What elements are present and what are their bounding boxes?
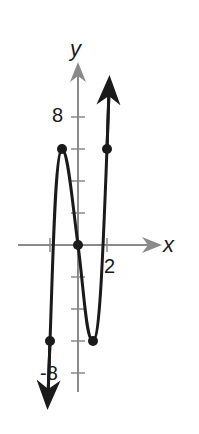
point--2--6 (45, 336, 55, 346)
y-tick-label-8: 8 (52, 104, 63, 127)
point-1--6 (88, 336, 98, 346)
point-0-0 (73, 240, 83, 250)
point--1-6 (57, 144, 67, 154)
chart-container: y x 8 2 -8 (0, 0, 199, 434)
y-axis-label: y (70, 36, 81, 62)
x-axis-label: x (163, 232, 174, 258)
x-axis (18, 238, 152, 252)
y-axis (71, 72, 85, 392)
y-tick-label--8: -8 (40, 362, 58, 385)
graph-svg (0, 0, 199, 434)
x-tick-label-2: 2 (104, 255, 115, 278)
point-2-6 (102, 144, 112, 154)
